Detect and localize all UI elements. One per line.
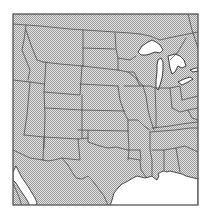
map-container — [0, 0, 209, 218]
us-map — [0, 0, 209, 218]
